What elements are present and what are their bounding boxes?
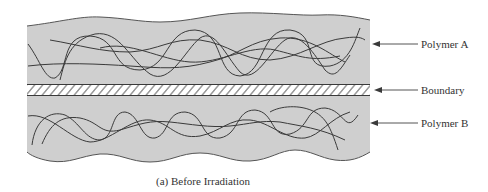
polymer-b-arrowhead — [370, 120, 378, 126]
polymer-a-arrowhead — [372, 41, 380, 47]
boundary-arrowhead — [374, 87, 382, 93]
polymer-a-layer — [27, 13, 370, 84]
polymer-b-layer — [27, 96, 370, 162]
boundary-label: Boundary — [421, 84, 464, 96]
figure: Polymer A Boundary Polymer B (a) Before … — [0, 0, 488, 192]
figure-caption: (a) Before Irradiation — [156, 175, 250, 187]
boundary-layer — [27, 85, 370, 96]
polymer-diagram — [0, 0, 488, 192]
polymer-b-label: Polymer B — [421, 117, 468, 129]
leader-arrows — [370, 41, 418, 126]
polymer-a-label: Polymer A — [421, 38, 468, 50]
